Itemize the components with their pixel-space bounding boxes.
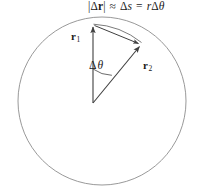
vector-label-r1: r1 bbox=[71, 31, 80, 44]
equation-delta: Δ bbox=[90, 0, 98, 12]
angle-label-delta-theta: Δθ bbox=[89, 60, 103, 72]
equation-bar-close: | bbox=[103, 0, 105, 12]
angle-label-theta: θ bbox=[96, 59, 103, 71]
arc-delta-s bbox=[94, 24, 142, 42]
equation-label: |Δr|≈Δs=rΔθ bbox=[88, 1, 164, 13]
circular-motion-figure: |Δr|≈Δs=rΔθ r1 r2 Δθ bbox=[0, 0, 213, 186]
equation-delta-theta-delta: Δ bbox=[151, 0, 159, 12]
equation-approx: ≈ bbox=[110, 0, 116, 12]
vector-label-r2-subscript: 2 bbox=[148, 64, 152, 73]
figure-canvas bbox=[0, 0, 213, 186]
vector-label-r1-subscript: 1 bbox=[76, 35, 80, 44]
main-circle bbox=[18, 17, 186, 185]
equation-delta-theta-var: θ bbox=[159, 0, 165, 12]
vector-label-r2: r2 bbox=[143, 60, 152, 73]
equation-equals: = bbox=[136, 0, 143, 12]
vector-r2 bbox=[93, 47, 140, 104]
equation-delta-s-var: s bbox=[127, 0, 132, 12]
